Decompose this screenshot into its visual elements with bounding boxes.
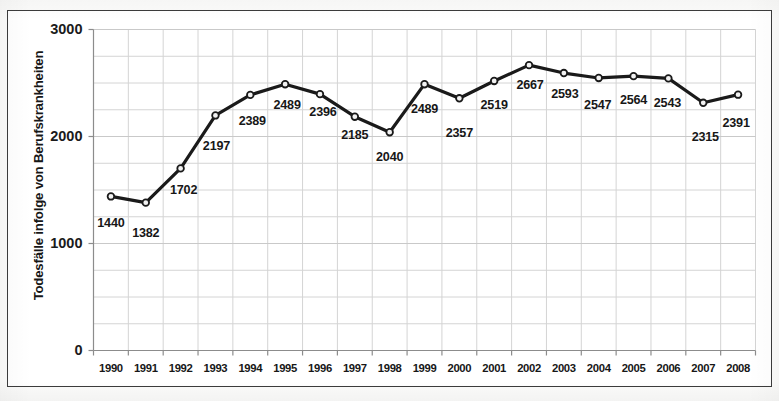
y-tick-label: 0 — [23, 342, 83, 358]
data-point-label: 1702 — [161, 183, 207, 197]
data-point-label: 2315 — [682, 130, 728, 144]
data-point-label: 2357 — [436, 126, 482, 140]
data-point-label: 1382 — [123, 226, 169, 240]
y-tick-label: 2000 — [23, 128, 83, 144]
data-point-label: 2197 — [193, 139, 239, 153]
y-axis-title: Todesfälle infolge von Berufskrankheiten — [31, 16, 46, 336]
y-tick-label: 1000 — [23, 235, 83, 251]
chart-figure: Todesfälle infolge von Berufskrankheiten… — [0, 0, 779, 401]
x-tick-label: 2008 — [715, 362, 761, 374]
data-point-label: 2489 — [402, 102, 448, 116]
data-point-label: 2543 — [644, 96, 690, 110]
data-point-label: 2519 — [471, 98, 517, 112]
data-point-label: 2040 — [367, 150, 413, 164]
chart-frame-border — [7, 10, 772, 387]
y-tick-label: 3000 — [23, 21, 83, 37]
data-point-label: 2185 — [332, 128, 378, 142]
data-point-label: 2396 — [300, 105, 346, 119]
data-point-label: 2391 — [713, 116, 759, 130]
data-point-label: 2389 — [229, 114, 275, 128]
